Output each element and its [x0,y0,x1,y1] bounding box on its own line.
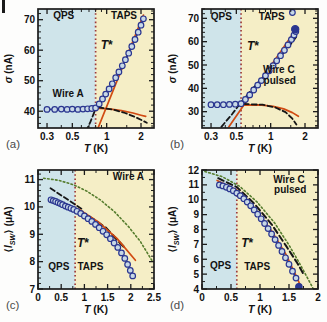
svg-text:12: 12 [188,165,200,176]
svg-text:6: 6 [193,254,199,265]
svg-text:10: 10 [24,201,36,212]
svg-text:40: 40 [24,106,36,117]
svg-text:50: 50 [24,75,36,86]
svg-text:0.5: 0.5 [229,131,243,142]
svg-text:T (K): T (K) [84,142,108,154]
svg-text:2: 2 [138,131,144,142]
svg-text:⟨ISW⟩ (μA): ⟨ISW⟩ (μA) [3,206,17,252]
svg-text:TAPS: TAPS [259,11,285,22]
svg-text:7: 7 [29,284,35,295]
panel-d-isw-vs-T-wire-c: 00.511.52456789101112T (K)⟨ISW⟩ (μA)Wire… [164,161,327,322]
svg-text:T (K): T (K) [248,142,272,154]
svg-text:σ (nA): σ (nA) [167,54,178,83]
panel-a-sigma-vs-T-wire-a: 0.30.51240506070T (K)σ (nA)QPSTAPST*Wire… [0,0,163,161]
svg-text:30: 30 [188,106,200,117]
svg-text:T*: T* [77,236,89,250]
svg-text:QPS: QPS [48,261,69,272]
svg-text:1: 1 [104,131,110,142]
svg-text:0.5: 0.5 [65,131,79,142]
svg-text:60: 60 [188,36,200,47]
svg-text:1: 1 [257,292,263,303]
figure-four-panel-plot: 0.30.51240506070T (K)σ (nA)QPSTAPST*Wire… [0,0,327,322]
svg-text:0.5: 0.5 [224,292,238,303]
svg-text:4: 4 [193,284,199,295]
svg-text:1.5: 1.5 [282,292,296,303]
svg-text:2: 2 [128,292,134,303]
svg-text:T (K): T (K) [248,303,272,315]
svg-text:QPS: QPS [211,11,232,22]
svg-text:T (K): T (K) [84,303,108,315]
svg-text:TAPS: TAPS [77,261,103,272]
svg-text:QPS: QPS [210,260,231,271]
svg-text:70: 70 [188,13,200,24]
svg-text:(d): (d) [170,299,184,311]
svg-text:Wire A: Wire A [113,171,144,182]
svg-text:Wire A: Wire A [53,88,84,99]
svg-text:TAPS: TAPS [111,10,137,21]
svg-text:QPS: QPS [53,10,74,21]
svg-text:pulsed: pulsed [264,75,296,86]
panel-b-sigma-vs-T-wire-c: 0.30.5123040506070T (K)σ (nA)QPSTAPST*Wi… [164,0,327,161]
svg-text:0: 0 [199,292,205,303]
svg-text:(c): (c) [6,299,20,311]
svg-text:⟨ISW⟩ (μA): ⟨ISW⟩ (μA) [167,206,181,252]
svg-text:11: 11 [24,174,35,185]
svg-text:10: 10 [188,194,200,205]
svg-text:1: 1 [82,292,88,303]
svg-text:70: 70 [24,14,36,25]
svg-text:8: 8 [193,224,199,235]
svg-text:60: 60 [24,45,36,56]
svg-text:9: 9 [29,229,35,240]
svg-text:TAPS: TAPS [244,261,270,272]
svg-text:50: 50 [188,60,200,71]
svg-text:0: 0 [35,292,41,303]
svg-text:(b): (b) [170,138,184,150]
svg-text:8: 8 [29,256,35,267]
svg-text:7: 7 [193,239,199,250]
svg-text:0.3: 0.3 [40,131,54,142]
svg-text:1.5: 1.5 [101,292,115,303]
svg-text:2: 2 [315,292,321,303]
svg-text:Wire C: Wire C [263,64,295,75]
svg-text:T*: T* [241,236,253,250]
svg-text:11: 11 [188,179,199,190]
svg-text:2.5: 2.5 [147,292,161,303]
svg-text:2: 2 [302,131,308,142]
svg-text:0.3: 0.3 [204,131,218,142]
svg-text:(a): (a) [6,138,20,150]
svg-text:9: 9 [193,209,199,220]
svg-text:40: 40 [188,83,200,94]
svg-text:σ (nA): σ (nA) [3,54,14,83]
svg-text:T*: T* [101,38,113,52]
svg-text:0.5: 0.5 [54,292,68,303]
svg-text:pulsed: pulsed [274,184,306,195]
panel-c-isw-vs-T-wire-a: 00.511.522.57891011T (K)⟨ISW⟩ (μA)Wire A… [0,161,163,322]
svg-text:1: 1 [268,131,274,142]
svg-text:5: 5 [193,269,199,280]
svg-text:T*: T* [247,39,259,53]
